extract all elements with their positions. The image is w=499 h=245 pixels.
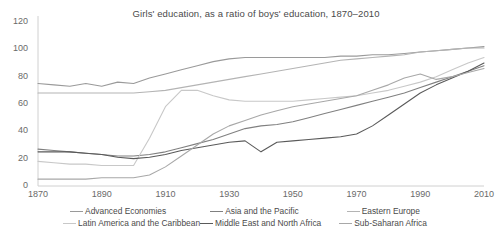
legend-item-sub-saharan-africa[interactable]: Sub-Saharan Africa [339,218,427,228]
legend-row: Latin America and the CaribbeanMiddle Ea… [63,218,427,228]
legend-label: Eastern Europe [362,206,420,216]
legend-item-middle-east-and-north-africa[interactable]: Middle East and North Africa [200,218,321,228]
legend-swatch-icon [200,223,213,224]
legend-label: Advanced Economies [85,206,166,216]
legend-item-asia-and-the-pacific[interactable]: Asia and the Pacific [210,206,299,216]
legend-label: Asia and the Pacific [225,206,299,216]
legend-item-eastern-europe[interactable]: Eastern Europe [347,206,420,216]
legend-swatch-icon [63,223,76,224]
legend-swatch-icon [347,211,360,212]
chart-legend: Advanced EconomiesAsia and the PacificEa… [0,206,490,228]
legend-row: Advanced EconomiesAsia and the PacificEa… [70,206,420,216]
legend-swatch-icon [210,211,223,212]
legend-swatch-icon [339,223,352,224]
series-lines [38,47,484,180]
legend-label: Latin America and the Caribbean [78,218,200,228]
series-line [38,48,484,93]
legend-item-advanced-economies[interactable]: Advanced Economies [70,206,166,216]
legend-item-latin-america-and-the-caribbean[interactable]: Latin America and the Caribbean [63,218,200,228]
legend-swatch-icon [70,211,83,212]
series-line [38,63,484,159]
series-line [38,66,484,156]
legend-label: Sub-Saharan Africa [354,218,427,228]
legend-label: Middle East and North Africa [215,218,321,228]
